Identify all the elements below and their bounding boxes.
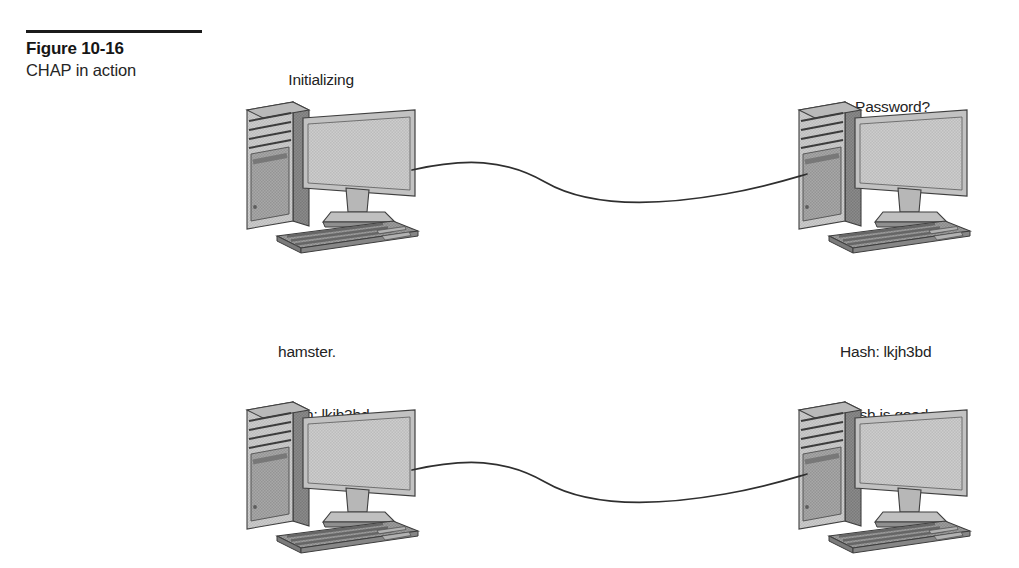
annotation-bottom-left-line-1: hamster.	[278, 341, 386, 362]
computer-bottom-right	[795, 388, 1010, 563]
annotation-top-left-line-1: Initializing	[277, 69, 365, 90]
network-cable-top	[395, 150, 815, 230]
desktop-computer-icon	[799, 102, 970, 253]
caption-divider-rule	[26, 30, 202, 33]
figure-number: Figure 10-16	[26, 38, 208, 59]
network-cable-bottom	[395, 450, 815, 530]
cable-path	[412, 462, 807, 502]
desktop-computer-icon	[799, 402, 970, 553]
desktop-computer-icon	[247, 402, 418, 553]
cable-path	[412, 162, 807, 202]
computer-top-right	[795, 88, 1010, 263]
desktop-computer-icon	[247, 102, 418, 253]
annotation-bottom-right-line-1: Hash: lkjh3bd	[840, 341, 948, 362]
figure-title: CHAP in action	[26, 60, 208, 81]
figure-caption-block: Figure 10-16 CHAP in action	[26, 30, 208, 81]
